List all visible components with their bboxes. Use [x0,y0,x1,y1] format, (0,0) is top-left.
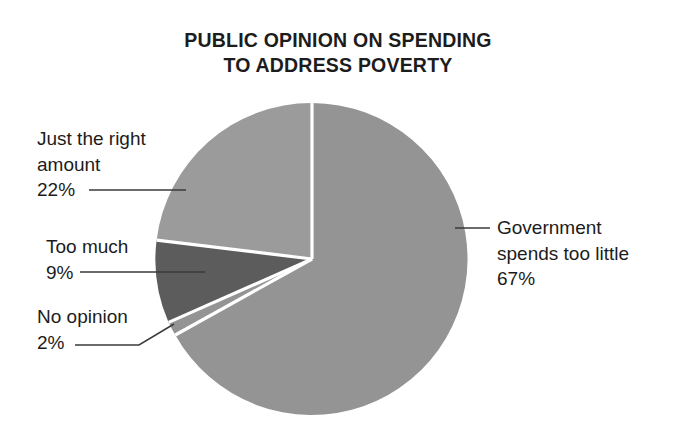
pie-chart-figure: PUBLIC OPINION ON SPENDING TO ADDRESS PO… [0,0,676,438]
pie-label-just-the-right-amount: Just the right amount 22% [37,126,217,203]
pie-label-government-spends-too-little: Government spends too little 67% [497,215,672,292]
pie-label-too-much: Too much 9% [46,234,226,285]
pie-label-no-opinion: No opinion 2% [37,304,217,355]
